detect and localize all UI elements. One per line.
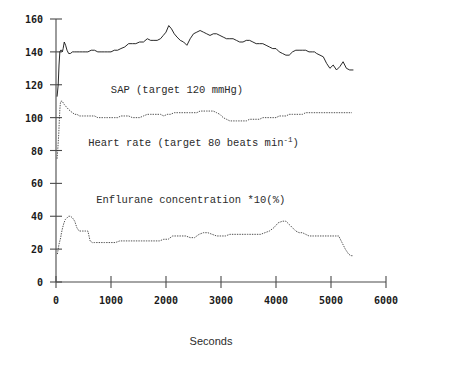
y-tick-label: 100	[25, 113, 43, 124]
enflurane-label: Enflurane concentration *10(%)	[96, 194, 285, 206]
y-tick-label: 60	[31, 178, 43, 189]
series-trace-1	[57, 101, 352, 159]
x-tick-label: 5000	[319, 295, 343, 306]
y-tick-label: 120	[25, 80, 43, 91]
y-tick-label: 0	[37, 277, 43, 288]
x-tick-label: 4000	[264, 295, 288, 306]
y-tick-label: 160	[25, 14, 43, 25]
axes	[50, 19, 386, 288]
x-axis-title-label: Seconds	[190, 335, 233, 347]
chart-container: 0204060801001201401600100020003000400050…	[0, 0, 457, 365]
x-tick-label: 1000	[99, 295, 123, 306]
y-tick-label: 20	[31, 244, 43, 255]
x-tick-label: 3000	[209, 295, 233, 306]
y-tick-label: 140	[25, 47, 43, 58]
x-tick-label: 2000	[154, 295, 178, 306]
y-tick-label: 80	[31, 146, 43, 157]
x-tick-label: 6000	[374, 295, 398, 306]
y-tick-label: 40	[31, 211, 43, 222]
x-tick-label: 0	[53, 295, 59, 306]
series-annotations: SAP (target 120 mmHg)Heart rate (target …	[88, 84, 299, 206]
series-trace-2	[57, 216, 352, 255]
axis-tick-labels: 0204060801001201401600100020003000400050…	[25, 14, 398, 306]
heart-rate-label: Heart rate (target 80 beats min-1)	[88, 136, 299, 149]
sap-label: SAP (target 120 mmHg)	[111, 84, 243, 96]
x-axis-title: Seconds	[190, 335, 233, 347]
physiology-line-chart: 0204060801001201401600100020003000400050…	[0, 0, 457, 365]
